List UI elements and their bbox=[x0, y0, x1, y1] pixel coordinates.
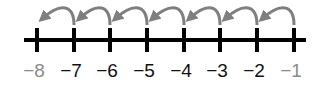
tick-label: −2 bbox=[243, 60, 265, 81]
tick-label: −1 bbox=[280, 60, 302, 81]
jump-arrow bbox=[226, 8, 257, 25]
jump-arrow bbox=[116, 8, 147, 25]
number-line: −8−7−6−5−4−3−2−1 bbox=[0, 0, 314, 86]
tick-label: −4 bbox=[170, 60, 192, 81]
tick-label: −3 bbox=[206, 60, 228, 81]
jump-arrow bbox=[263, 8, 294, 25]
jump-arrows bbox=[43, 8, 294, 25]
jump-arrow bbox=[153, 8, 184, 25]
tick-label: −8 bbox=[23, 60, 45, 81]
tick-label: −6 bbox=[96, 60, 118, 81]
tick-label: −7 bbox=[60, 60, 82, 81]
jump-arrow bbox=[43, 8, 74, 25]
tick-label: −5 bbox=[133, 60, 155, 81]
jump-arrow bbox=[80, 8, 110, 25]
tick-labels: −8−7−6−5−4−3−2−1 bbox=[23, 60, 302, 81]
jump-arrow bbox=[190, 8, 220, 25]
